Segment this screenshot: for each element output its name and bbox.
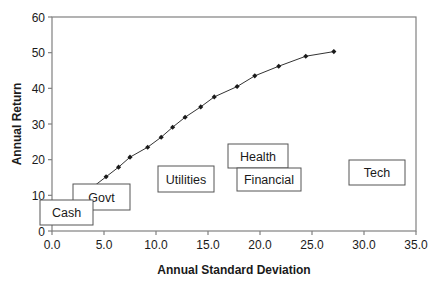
x-tick-label: 0.0 <box>44 238 61 252</box>
x-tick-label: 30.0 <box>352 238 376 252</box>
label-text: Tech <box>364 166 390 180</box>
x-tick-label: 15.0 <box>196 238 220 252</box>
label-text: Financial <box>244 173 294 187</box>
y-tick-label: 30 <box>32 118 46 132</box>
y-tick-label: 50 <box>32 46 46 60</box>
x-tick-label: 20.0 <box>248 238 272 252</box>
x-axis: 0.05.010.015.020.025.030.035.0 <box>44 231 428 252</box>
data-point-marker <box>276 64 281 69</box>
y-axis-title: Annual Return <box>10 83 24 166</box>
x-tick-label: 25.0 <box>300 238 324 252</box>
y-tick-label: 40 <box>32 82 46 96</box>
label-text: Utilities <box>166 173 206 187</box>
chart: 0102030405060 0.05.010.015.020.025.030.0… <box>0 0 439 288</box>
label-box-financial: Financial <box>237 168 301 191</box>
x-tick-label: 10.0 <box>144 238 168 252</box>
x-tick-label: 35.0 <box>404 238 428 252</box>
x-axis-title: Annual Standard Deviation <box>157 263 310 277</box>
efficient-frontier-series <box>94 49 337 186</box>
data-point-marker <box>331 49 336 54</box>
label-box-tech: Tech <box>349 160 405 185</box>
y-tick-label: 20 <box>32 153 46 167</box>
data-point-marker <box>303 54 308 59</box>
y-tick-label: 0 <box>38 225 45 239</box>
label-box-utilities: Utilities <box>158 166 214 192</box>
x-tick-label: 5.0 <box>96 238 113 252</box>
label-text: Health <box>240 150 276 164</box>
asset-class-labels: GovtCashUtilitiesHealthFinancialTech <box>40 144 405 225</box>
label-text: Cash <box>52 206 81 220</box>
label-box-cash: Cash <box>40 200 93 225</box>
label-box-health: Health <box>228 144 288 168</box>
data-point-marker <box>252 73 257 78</box>
y-tick-label: 60 <box>32 11 46 25</box>
data-point-marker <box>235 84 240 89</box>
